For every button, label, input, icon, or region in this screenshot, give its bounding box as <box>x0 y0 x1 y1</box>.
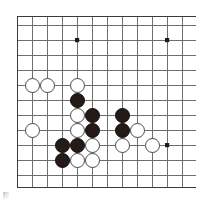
black-stone-b2[interactable] <box>85 108 100 123</box>
white-stone-w1[interactable] <box>25 78 40 93</box>
white-stone-w4[interactable] <box>70 108 85 123</box>
stones-layer <box>0 0 204 203</box>
white-stone-w11[interactable] <box>70 153 85 168</box>
black-stone-b3[interactable] <box>115 108 130 123</box>
white-stone-w9[interactable] <box>115 138 130 153</box>
black-stone-b5[interactable] <box>115 123 130 138</box>
scan-corner-artifact <box>3 192 9 199</box>
black-stone-b4[interactable] <box>85 123 100 138</box>
go-diagram-root <box>0 0 204 203</box>
black-stone-b7[interactable] <box>70 138 85 153</box>
white-stone-w5[interactable] <box>25 123 40 138</box>
white-stone-w7[interactable] <box>130 123 145 138</box>
white-stone-w2[interactable] <box>40 78 55 93</box>
black-stone-b1[interactable] <box>70 93 85 108</box>
white-stone-w3[interactable] <box>70 78 85 93</box>
black-stone-b8[interactable] <box>55 153 70 168</box>
white-stone-w8[interactable] <box>85 138 100 153</box>
white-stone-w10[interactable] <box>145 138 160 153</box>
white-stone-w6[interactable] <box>70 123 85 138</box>
white-stone-w12[interactable] <box>85 153 100 168</box>
black-stone-b6[interactable] <box>55 138 70 153</box>
